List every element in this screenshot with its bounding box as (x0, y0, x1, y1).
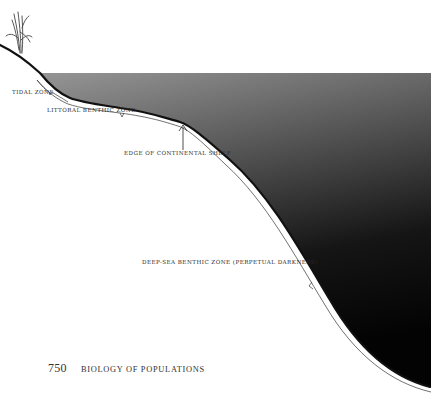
edge-of-continental-shelf-label: EDGE OF CONTINENTAL SHELF (124, 150, 231, 156)
deep-sea-zone-bracket (309, 282, 313, 289)
ocean-water-body (40, 73, 431, 387)
page-number: 750 (48, 361, 67, 375)
running-head: BIOLOGY OF POPULATIONS (81, 365, 205, 374)
water-surface-waves (40, 66, 432, 72)
deep-sea-benthic-zone-label: DEEP-SEA BENTHIC ZONE (PERPETUAL DARKNES… (142, 259, 317, 265)
marsh-plant-icon (6, 12, 32, 53)
tidal-zone-label: TIDAL ZONE (12, 89, 54, 95)
ocean-zones-diagram (0, 0, 444, 400)
littoral-benthic-zone-label: LITTORAL BENTHIC ZONE (47, 107, 136, 113)
page-footer: 750 BIOLOGY OF POPULATIONS (48, 358, 205, 376)
